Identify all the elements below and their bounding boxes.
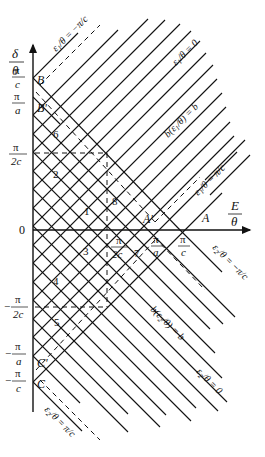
point-A: A xyxy=(201,211,210,225)
label-eps2-neg-pi-c: ε2/θ = −π/c xyxy=(209,242,251,284)
svg-text:c: c xyxy=(181,246,186,258)
point-B: B xyxy=(37,73,45,87)
svg-text:a: a xyxy=(16,355,22,367)
svg-text:b(ε2/θ) = b: b(ε2/θ) = b xyxy=(147,304,187,344)
label-eps2-b: b(ε2/θ) = b xyxy=(147,304,187,344)
region-7: 7 xyxy=(134,247,140,259)
y-tick-neg-pi-a: − π a xyxy=(5,340,26,367)
svg-text:θ: θ xyxy=(231,214,238,229)
svg-text:ε2/θ = 0: ε2/θ = 0 xyxy=(193,366,225,398)
svg-text:π: π xyxy=(13,141,19,153)
region-5: 5 xyxy=(54,316,60,328)
origin-label: 0 xyxy=(19,223,25,237)
svg-text:a: a xyxy=(15,104,21,116)
svg-text:π: π xyxy=(153,233,159,245)
label-eps1-neg-pi-c: ε1/θ = −π/c xyxy=(50,13,92,55)
y-tick-pi-2c: π 2c xyxy=(9,141,27,167)
svg-text:ε1/θ = 0: ε1/θ = 0 xyxy=(170,37,202,69)
eps1-line-family xyxy=(33,19,250,382)
label-eps2-zero: ε2/θ = 0 xyxy=(193,366,225,398)
region-8: 8 xyxy=(112,195,118,207)
svg-text:ε2/θ = −π/c: ε2/θ = −π/c xyxy=(209,242,251,284)
svg-text:−: − xyxy=(5,347,11,359)
svg-text:π: π xyxy=(15,293,21,305)
svg-text:π: π xyxy=(116,234,122,246)
y-tick-neg-pi-2c: − π 2c xyxy=(4,293,28,320)
x-axis-label: E θ xyxy=(228,198,242,229)
svg-text:−: − xyxy=(5,374,11,386)
svg-text:c: c xyxy=(15,78,20,90)
label-eps1-zero: ε1/θ = 0 xyxy=(170,37,202,69)
svg-text:b(ε1/θ) = b: b(ε1/θ) = b xyxy=(162,101,202,141)
svg-text:π: π xyxy=(15,340,21,352)
point-B-prime: B' xyxy=(37,101,47,115)
point-A-prime: A' xyxy=(142,212,153,226)
svg-text:2c: 2c xyxy=(13,308,24,320)
region-3: 3 xyxy=(83,245,89,257)
svg-text:c: c xyxy=(16,382,21,394)
y-tick-pi-c: π c xyxy=(12,64,25,90)
svg-text:−: − xyxy=(4,300,10,312)
region-1: 1 xyxy=(84,205,90,217)
x-tick-pi-c: π c xyxy=(178,233,190,258)
label-eps1-pos-pi-c: ε1/θ = π/c xyxy=(192,162,229,199)
svg-text:δ: δ xyxy=(12,46,19,61)
point-C: C xyxy=(37,377,46,391)
label-eps1-b: b(ε1/θ) = b xyxy=(162,101,202,141)
svg-text:a: a xyxy=(153,246,159,258)
svg-text:ε1/θ = π/c: ε1/θ = π/c xyxy=(192,162,229,199)
svg-text:2c: 2c xyxy=(11,155,22,167)
point-C-prime: C' xyxy=(37,356,48,370)
svg-text:π: π xyxy=(15,367,21,379)
svg-text:2c: 2c xyxy=(112,248,123,260)
svg-text:π: π xyxy=(180,233,186,245)
svg-text:π: π xyxy=(14,64,20,76)
y-tick-neg-pi-c: − π c xyxy=(5,367,26,394)
region-4: 4 xyxy=(53,275,59,287)
brillouin-zone-diagram: δ θ E θ 0 π c π a π 2c − π 2c − π a − π xyxy=(0,0,265,457)
svg-text:E: E xyxy=(230,198,239,213)
region-6: 6 xyxy=(53,128,59,140)
region-2: 2 xyxy=(53,168,59,180)
svg-text:ε1/θ = −π/c: ε1/θ = −π/c xyxy=(50,13,92,55)
y-tick-pi-a: π a xyxy=(12,90,25,116)
svg-text:π: π xyxy=(14,90,20,102)
